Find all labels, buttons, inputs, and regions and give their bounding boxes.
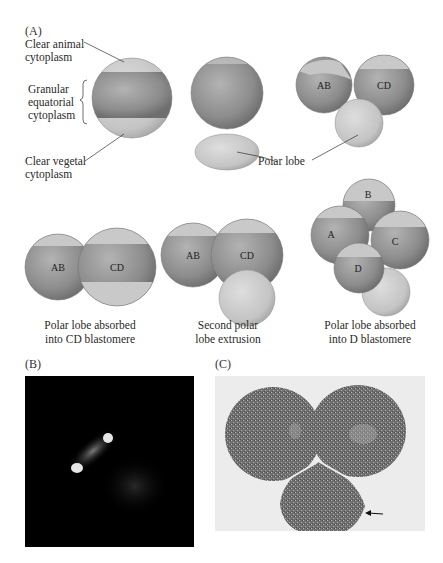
second-polar-lobe (160, 219, 284, 326)
cell-label-cd: CD (235, 250, 259, 261)
cell-label-c: C (389, 236, 401, 247)
caption-second-lobe: Second polar lobe extrusion (178, 318, 278, 346)
label-line: cytoplasm (25, 168, 86, 181)
cell-label-cd: CD (372, 80, 396, 91)
cell-label-ab: AB (312, 80, 336, 91)
label-line: equatorial (28, 96, 75, 109)
fluorescence-micrograph (25, 376, 194, 547)
cell-label-a: A (325, 229, 337, 240)
label-line: cytoplasm (25, 51, 84, 64)
panel-b-label: (B) (25, 357, 41, 372)
cell-label-b: B (362, 189, 374, 200)
caption-line: into CD blastomere (20, 332, 160, 346)
first-polar-lobe (190, 52, 265, 170)
label-line: Granular (28, 83, 75, 96)
label-clear-vegetal: Clear vegetal cytoplasm (25, 155, 86, 181)
panel-c-label: (C) (215, 357, 231, 372)
caption-line: Second polar (178, 318, 278, 332)
uncleaved-egg (90, 58, 174, 138)
arrow-head-icon (365, 510, 371, 516)
caption-line: lobe extrusion (178, 332, 278, 346)
label-granular-equatorial: Granular equatorial cytoplasm (28, 83, 75, 122)
cell-label-ab: AB (46, 262, 70, 273)
label-line: Clear vegetal (25, 155, 86, 168)
cell-label-ab: AB (181, 250, 205, 261)
caption-cd-absorbed: Polar lobe absorbed into CD blastomere (20, 318, 160, 346)
label-line: cytoplasm (28, 109, 75, 122)
two-cell-absorbed (25, 228, 158, 308)
label-clear-animal: Clear animal cytoplasm (25, 38, 84, 64)
two-cell-with-lobe (296, 55, 414, 147)
label-line: Clear animal (25, 38, 84, 51)
trefoil-embryo-image (215, 376, 425, 531)
cell-label-cd: CD (105, 262, 129, 273)
caption-line: Polar lobe absorbed (300, 318, 440, 332)
caption-line: Polar lobe absorbed (20, 318, 160, 332)
spindle-image (25, 376, 194, 547)
panel-a-label: (A) (25, 24, 42, 39)
caption-line: into D blastomere (300, 332, 440, 346)
cell-label-d: D (352, 263, 364, 274)
caption-d-absorbed: Polar lobe absorbed into D blastomere (300, 318, 440, 346)
label-polar-lobe: Polar lobe (258, 155, 305, 168)
trefoil-micrograph (215, 376, 425, 531)
